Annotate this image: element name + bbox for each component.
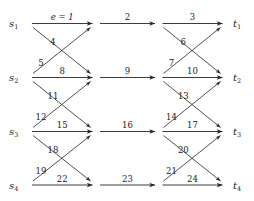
diagonal-edge-label-19: 19 bbox=[36, 166, 47, 176]
diagonal-edge-label-21: 21 bbox=[166, 166, 177, 176]
diagonal-edge-label-20: 20 bbox=[178, 145, 189, 155]
diagonal-edge-label-11: 11 bbox=[48, 91, 59, 101]
source-node-s4: s4 bbox=[9, 180, 18, 193]
source-node-s3: s3 bbox=[9, 126, 18, 139]
diagonal-edge-label-7: 7 bbox=[169, 58, 174, 68]
network-diagram: e = 123891015161722232445671112131418192… bbox=[0, 0, 254, 201]
edge-label-r3-c1: 15 bbox=[57, 120, 68, 130]
diagonal-edge-label-13: 13 bbox=[178, 91, 189, 101]
edge-label-r4-c3: 24 bbox=[187, 174, 198, 184]
edge-label-r2-c1: 8 bbox=[60, 66, 65, 76]
edge-label-r3-c2: 16 bbox=[122, 120, 133, 130]
terminal-node-t3: t3 bbox=[233, 126, 241, 139]
edge-label-r1-c1: e = 1 bbox=[51, 12, 74, 22]
edge-label-r1-c3: 3 bbox=[190, 12, 195, 22]
terminal-node-t2: t2 bbox=[233, 72, 241, 85]
diagonal-edge-label-4: 4 bbox=[50, 37, 55, 47]
edge-label-r4-c1: 22 bbox=[57, 174, 68, 184]
source-node-s2: s2 bbox=[9, 72, 18, 85]
diagonal-edge-label-18: 18 bbox=[48, 145, 59, 155]
diagonal-edge-label-6: 6 bbox=[181, 37, 186, 47]
edge-label-r2-c3: 10 bbox=[187, 66, 198, 76]
terminal-node-t1: t1 bbox=[233, 18, 241, 31]
edge-label-r3-c3: 17 bbox=[187, 120, 198, 130]
edge-label-r2-c2: 9 bbox=[125, 66, 130, 76]
diagonal-edge-label-14: 14 bbox=[166, 112, 177, 122]
source-node-s1: s1 bbox=[9, 18, 18, 31]
terminal-node-t4: t4 bbox=[233, 180, 241, 193]
network-graph-svg: e = 123891015161722232445671112131418192… bbox=[0, 0, 254, 201]
edge-label-r4-c2: 23 bbox=[122, 174, 133, 184]
diagonal-edge-label-5: 5 bbox=[38, 58, 43, 68]
edge-label-r1-c2: 2 bbox=[125, 12, 130, 22]
edge-labels-layer: e = 123891015161722232445671112131418192… bbox=[36, 12, 198, 184]
edges-layer bbox=[32, 24, 223, 186]
diagonal-edge-label-12: 12 bbox=[36, 112, 47, 122]
